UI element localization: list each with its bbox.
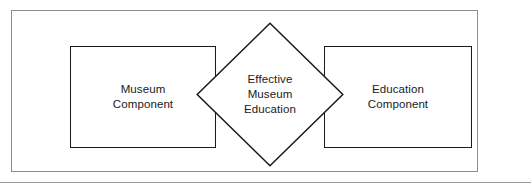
figure-root: Museum Component Effective Museum Educat… — [0, 0, 531, 193]
museum-component-box: Museum Component — [70, 46, 216, 148]
education-component-label: Education Component — [368, 82, 428, 112]
museum-component-label: Museum Component — [113, 82, 173, 112]
bottom-divider-rule — [0, 182, 531, 183]
effective-museum-education-diamond: Effective Museum Education — [196, 22, 344, 167]
education-component-box: Education Component — [324, 46, 472, 148]
effective-museum-education-label: Effective Museum Education — [196, 22, 344, 167]
